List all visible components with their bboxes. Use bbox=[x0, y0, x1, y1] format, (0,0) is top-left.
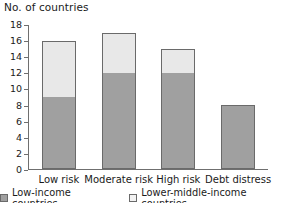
y-tick-mark bbox=[24, 106, 28, 107]
x-axis-label: High risk bbox=[156, 174, 200, 185]
x-axis-line bbox=[28, 169, 268, 170]
bar-segment-low-income bbox=[42, 97, 76, 169]
x-axis-label: Low risk bbox=[38, 174, 79, 185]
bar-column bbox=[42, 41, 76, 169]
y-tick-label: 16 bbox=[10, 36, 22, 46]
legend-item-lower-middle-income: Lower-middle-income countries bbox=[129, 187, 295, 203]
y-tick-label: 12 bbox=[10, 69, 22, 79]
y-tick-label: 8 bbox=[16, 101, 22, 111]
bar-segment-low-income bbox=[161, 73, 195, 169]
y-tick-mark bbox=[24, 89, 28, 90]
y-tick-label: 2 bbox=[16, 149, 22, 159]
y-tick-label: 6 bbox=[16, 117, 22, 127]
y-tick-label: 4 bbox=[16, 133, 22, 143]
dark-gray-swatch-icon bbox=[0, 194, 8, 202]
y-tick-mark bbox=[24, 73, 28, 74]
bar-segment-lower-middle-income bbox=[161, 49, 195, 73]
plot-area: 024681012141618 bbox=[28, 25, 268, 170]
y-tick-mark bbox=[24, 138, 28, 139]
chart-axis-title: No. of countries bbox=[4, 1, 89, 13]
bar-column bbox=[161, 49, 195, 169]
y-tick-label: 10 bbox=[10, 85, 22, 95]
y-tick-mark bbox=[24, 170, 28, 171]
bar-column bbox=[221, 105, 255, 169]
chart-legend: Low-income countries Lower-middle-income… bbox=[0, 187, 295, 203]
y-tick-mark bbox=[24, 41, 28, 42]
y-tick-mark bbox=[24, 25, 28, 26]
legend-label-lower-middle-income: Lower-middle-income countries bbox=[141, 187, 295, 203]
y-tick-label: 18 bbox=[10, 20, 22, 30]
bar-column bbox=[102, 33, 136, 169]
bar-segment-lower-middle-income bbox=[102, 33, 136, 73]
bar-segment-low-income bbox=[102, 73, 136, 169]
stacked-bar-chart: No. of countries 024681012141618 Low ris… bbox=[0, 0, 295, 203]
x-axis-label: Moderate risk bbox=[84, 174, 153, 185]
bar-group bbox=[29, 25, 268, 169]
y-tick-mark bbox=[24, 154, 28, 155]
light-gray-swatch-icon bbox=[129, 194, 137, 202]
y-tick-mark bbox=[24, 57, 28, 58]
y-tick-mark bbox=[24, 122, 28, 123]
bar-segment-lower-middle-income bbox=[42, 41, 76, 97]
legend-item-low-income: Low-income countries bbox=[0, 187, 119, 203]
bar-segment-low-income bbox=[221, 105, 255, 169]
y-tick-label: 14 bbox=[10, 52, 22, 62]
legend-label-low-income: Low-income countries bbox=[12, 187, 119, 203]
x-axis-label: Debt distress bbox=[205, 174, 271, 185]
y-tick-label: 0 bbox=[16, 165, 22, 175]
